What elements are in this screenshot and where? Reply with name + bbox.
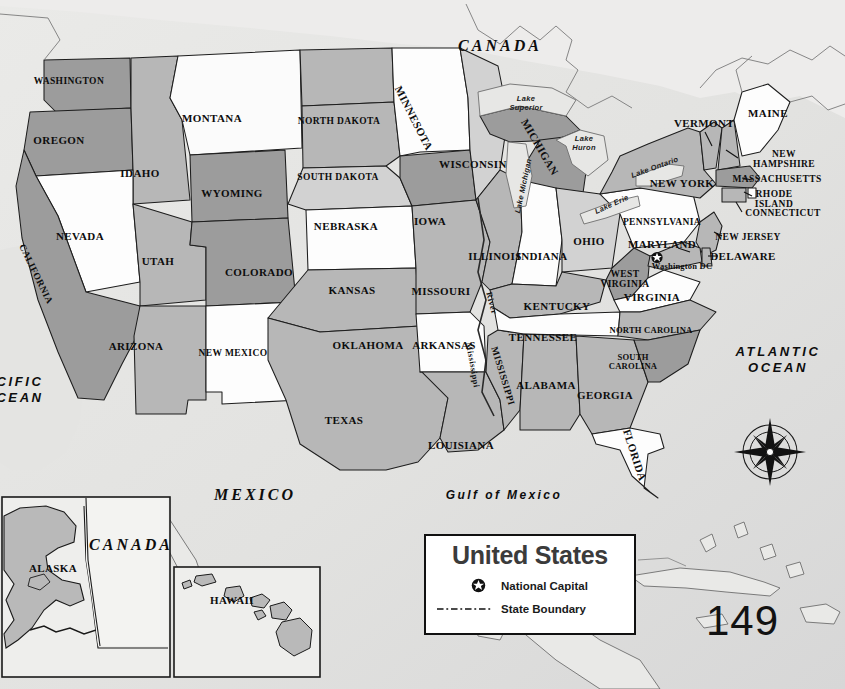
state-label-north-carolina: NORTH CAROLINA bbox=[610, 325, 693, 335]
shape-south-dakota bbox=[302, 102, 400, 168]
state-label-new-hampshire: NEWHAMPSHIRE bbox=[753, 149, 815, 170]
state-label-west-virginia: WESTVIRGINIA bbox=[600, 269, 649, 290]
ocean-line1: ATLANTIC bbox=[736, 344, 821, 359]
legend-label-boundary: State Boundary bbox=[501, 603, 586, 615]
state-label-arizona: ARIZONA bbox=[109, 340, 164, 352]
capital-label-washington-dc: Washington DC bbox=[652, 261, 712, 271]
ocean-line2: OCEAN bbox=[748, 360, 808, 375]
state-label-wisconsin: WISCONSIN bbox=[439, 158, 507, 170]
state-label-delaware: DELAWARE bbox=[710, 250, 776, 262]
state-label-line2: CAROLINA bbox=[609, 361, 657, 371]
legend-row-capital: National Capital bbox=[441, 578, 619, 593]
ocean-label-pacific-ocean: CIFICCEAN bbox=[0, 374, 44, 407]
page-number: 149 bbox=[706, 600, 779, 642]
country-label-canada-2: CANADA bbox=[89, 536, 173, 554]
state-label-new-mexico: NEW MEXICO bbox=[198, 348, 267, 358]
lake-line2: Huron bbox=[572, 143, 596, 152]
ocean-line2: CEAN bbox=[0, 390, 44, 405]
state-label-alabama: ALABAMA bbox=[516, 379, 576, 391]
legend-label-capital: National Capital bbox=[501, 580, 588, 592]
state-label-pennsylvania: PENNSYLVANIA bbox=[623, 217, 701, 227]
state-label-kansas: KANSAS bbox=[328, 284, 375, 296]
state-label-illinois: ILLINOIS bbox=[468, 250, 521, 262]
sea-label-gulf-of-mexico: Gulf of Mexico bbox=[446, 488, 562, 502]
state-label-indiana: INDIANA bbox=[516, 250, 567, 262]
state-label-new-york: NEW YORK bbox=[650, 177, 715, 189]
state-label-idaho: IDAHO bbox=[120, 167, 159, 179]
state-label-south-dakota: SOUTH DAKOTA bbox=[297, 172, 378, 182]
shape-north-dakota bbox=[300, 48, 394, 106]
state-label-rhode-island: RHODEISLAND bbox=[755, 189, 793, 210]
state-label-nevada: NEVADA bbox=[56, 230, 104, 242]
state-label-montana: MONTANA bbox=[182, 112, 242, 124]
lake-label-lake-huron: LakeHuron bbox=[572, 135, 596, 152]
state-label-colorado: COLORADO bbox=[225, 266, 293, 278]
inset-label-hawaii: HAWAII bbox=[210, 594, 254, 606]
state-label-ohio: OHIO bbox=[573, 235, 605, 247]
state-label-line1: RHODE bbox=[756, 189, 793, 199]
state-label-line1: NEW bbox=[772, 149, 796, 159]
hawaii-inset-art bbox=[174, 567, 320, 677]
state-label-north-dakota: NORTH DAKOTA bbox=[298, 116, 381, 126]
lake-label-lake-superior: LakeSuperior bbox=[509, 95, 542, 112]
shape-arizona bbox=[134, 306, 206, 414]
state-label-connecticut: CONNECTICUT bbox=[745, 208, 821, 218]
state-label-nebraska: NEBRASKA bbox=[314, 220, 378, 232]
state-label-kentucky: KENTUCKY bbox=[524, 300, 591, 312]
state-label-iowa: IOWA bbox=[414, 215, 446, 227]
state-label-missouri: MISSOURI bbox=[412, 285, 471, 297]
alaska-inset-art bbox=[2, 497, 170, 677]
state-label-virginia: VIRGINIA bbox=[624, 291, 680, 303]
state-label-maryland: MARYLAND bbox=[628, 238, 696, 250]
state-label-oregon: OREGON bbox=[33, 134, 84, 146]
canada-landmass-inset bbox=[86, 498, 168, 646]
state-label-utah: UTAH bbox=[142, 255, 175, 267]
national-capital-star-icon bbox=[463, 578, 493, 593]
state-label-line2: HAMPSHIRE bbox=[753, 159, 815, 169]
country-label-canada-0: CANADA bbox=[458, 37, 542, 55]
map-page: WASHINGTONOREGONIDAHOMONTANAWYOMINGNEVAD… bbox=[0, 0, 845, 689]
compass-center bbox=[766, 448, 773, 455]
state-label-new-jersey: NEW JERSEY bbox=[715, 232, 780, 242]
legend-row-boundary: State Boundary bbox=[441, 603, 619, 615]
state-label-washington: WASHINGTON bbox=[34, 76, 104, 86]
state-label-vermont: VERMONT bbox=[674, 117, 734, 129]
inset-label-alaska: ALASKA bbox=[29, 562, 77, 574]
shape-connecticut bbox=[722, 188, 746, 202]
state-label-line2: VIRGINIA bbox=[600, 279, 649, 289]
state-label-tennessee: TENNESSEE bbox=[509, 331, 577, 343]
state-label-line1: WEST bbox=[610, 269, 639, 279]
state-label-maine: MAINE bbox=[748, 107, 788, 119]
ocean-label-atlantic-ocean: ATLANTICOCEAN bbox=[736, 344, 821, 377]
shape-colorado bbox=[190, 218, 296, 306]
state-label-wyoming: WYOMING bbox=[201, 187, 262, 199]
ocean-line1: CIFIC bbox=[0, 374, 43, 389]
state-boundary-dash-icon bbox=[463, 605, 493, 613]
state-label-massachusetts: MASSACHUSETTS bbox=[732, 174, 821, 184]
legend-title: United States bbox=[452, 543, 608, 568]
shape-wyoming bbox=[190, 150, 288, 222]
state-label-georgia: GEORGIA bbox=[577, 389, 633, 401]
lake-line2: Superior bbox=[509, 103, 542, 112]
state-label-south-carolina: SOUTHCAROLINA bbox=[609, 353, 657, 372]
map-legend: United States National Capital State Bou… bbox=[424, 534, 636, 635]
country-label-mexico-1: MEXICO bbox=[214, 486, 296, 504]
state-label-oklahoma: OKLAHOMA bbox=[332, 339, 403, 351]
shape-montana bbox=[170, 50, 302, 155]
state-label-louisiana: LOUISIANA bbox=[428, 439, 494, 451]
state-label-texas: TEXAS bbox=[325, 414, 364, 426]
shape-kansas bbox=[306, 206, 416, 270]
